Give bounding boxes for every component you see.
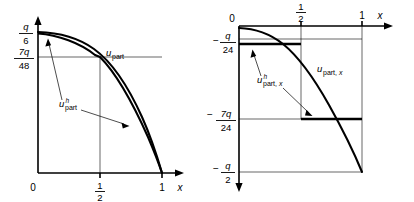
svg-text:part,: part, <box>263 80 277 88</box>
y-label-minus-7q-over-24: − 7q 24 <box>207 108 236 133</box>
svg-text:1: 1 <box>298 1 303 12</box>
x-label-one-half: 1 2 <box>296 1 306 24</box>
curve-u-part-x <box>239 28 362 172</box>
svg-text:2: 2 <box>97 192 102 202</box>
x-axis-arrow-icon <box>175 169 184 176</box>
leader-arrow-right-icon <box>122 123 130 129</box>
svg-text:7q: 7q <box>221 108 232 119</box>
x-label-one: 1 <box>359 10 365 21</box>
x-label-one-half: 1 2 <box>95 180 105 202</box>
x-label-zero: 0 <box>30 182 36 193</box>
svg-text:6: 6 <box>23 35 28 46</box>
leader-arrow-up-icon <box>251 50 257 58</box>
y-axis-arrow-down-icon <box>235 183 242 192</box>
x-axis-label: x <box>377 10 384 21</box>
leader-arrow-up-icon <box>45 39 51 47</box>
chart-panel-left: q 6 7q 48 0 1 2 1 x <box>0 0 200 202</box>
svg-text:part: part <box>112 53 124 61</box>
leader-arrow-down-right-icon <box>305 110 313 116</box>
x-label-one: 1 <box>159 182 165 193</box>
figure-root: q 6 7q 48 0 1 2 1 x <box>0 0 414 202</box>
svg-text:x: x <box>278 80 283 87</box>
svg-text:h: h <box>264 73 268 80</box>
y-label-q-over-6: q 6 <box>19 21 33 46</box>
svg-text:x: x <box>338 69 343 76</box>
svg-text:24: 24 <box>221 122 232 133</box>
svg-text:q: q <box>225 30 231 41</box>
svg-text:−: − <box>213 163 219 174</box>
y-axis-arrow-icon <box>34 16 41 25</box>
svg-text:48: 48 <box>19 60 30 71</box>
x-axis-arrow-icon <box>384 22 393 29</box>
left-chart-svg: q 6 7q 48 0 1 2 1 x <box>0 0 200 202</box>
y-label-minus-q-over-24: − q 24 <box>213 30 236 55</box>
svg-text:q: q <box>225 160 231 171</box>
svg-text:7q: 7q <box>19 46 30 57</box>
y-label-minus-q-over-2: − q 2 <box>213 160 235 185</box>
chart-panel-right: 0 − q 24 − 7q 24 − q 2 <box>207 0 414 202</box>
svg-text:h: h <box>66 97 70 104</box>
svg-text:2: 2 <box>298 13 303 24</box>
svg-text:24: 24 <box>223 44 234 55</box>
svg-text:2: 2 <box>225 174 230 185</box>
y-label-7q-over-48: 7q 48 <box>14 46 34 71</box>
right-chart-svg: 0 − q 24 − 7q 24 − q 2 <box>207 0 414 202</box>
svg-text:part,: part, <box>323 69 337 77</box>
svg-text:q: q <box>23 21 29 32</box>
svg-text:1: 1 <box>97 180 102 191</box>
x-axis-label: x <box>177 182 184 193</box>
annotation-u-part-x-h: u h part, x <box>251 50 313 117</box>
svg-text:part: part <box>65 104 77 112</box>
svg-text:−: − <box>213 35 219 46</box>
annotation-u-part-x: u part, x <box>317 63 343 77</box>
y-label-zero: 0 <box>229 13 235 24</box>
svg-text:−: − <box>207 109 213 120</box>
annotation-u-part: u part <box>106 47 124 61</box>
